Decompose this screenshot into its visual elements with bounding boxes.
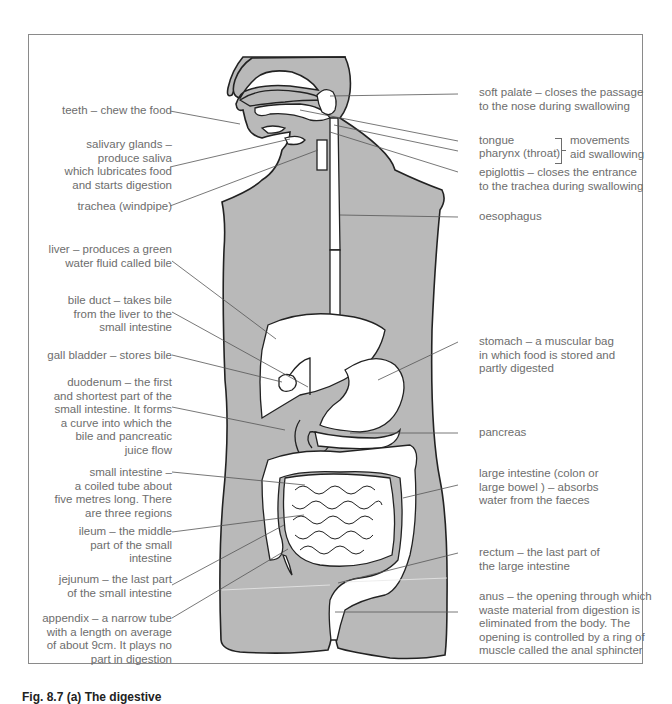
label-small-intestine: small intestine – a coiled tube about fi… [55,466,172,520]
label-tongue: tongue [479,134,514,148]
small-intestine-shape [284,474,395,566]
label-gall-bladder: gall bladder – stores bile [47,349,172,363]
figure-caption: Fig. 8.7 (a) The digestive [22,690,161,704]
label-ileum: ileum – the middle part of the small int… [79,525,172,566]
gall-bladder-shape [279,374,296,391]
label-trachea: trachea (windpipe) [77,200,172,214]
swallowing-bracket [555,138,562,164]
label-rectum: rectum – the last part of the large inte… [479,546,600,573]
swallowing-bracket-tick [561,150,566,151]
label-salivary-glands: salivary glands – produce saliva which l… [65,138,172,192]
label-oesophagus: oesophagus [479,210,542,224]
label-bile-duct: bile duct – takes bile from the liver to… [68,294,172,335]
label-liver: liver – produces a green water fluid cal… [49,243,172,270]
label-duodenum: duodenum – the first and shortest part o… [54,376,172,457]
label-pharynx: pharynx (throat) [479,147,560,161]
label-epiglottis: epiglottis – closes the entrance to the … [479,166,643,193]
label-stomach: stomach – a muscular bag in which food i… [479,335,615,376]
label-teeth: teeth – chew the food [62,104,172,118]
label-anus: anus – the opening through which waste m… [479,590,652,658]
label-soft-palate: soft palate – closes the passage to the … [479,86,643,113]
label-movements: movements aid swallowing [570,134,644,161]
label-large-intestine: large intestine (colon or large bowel ) … [479,467,599,508]
label-pancreas: pancreas [479,426,526,440]
label-appendix: appendix – a narrow tube with a length o… [42,612,172,666]
label-jejunum: jejunum – the last part of the small int… [59,573,172,600]
